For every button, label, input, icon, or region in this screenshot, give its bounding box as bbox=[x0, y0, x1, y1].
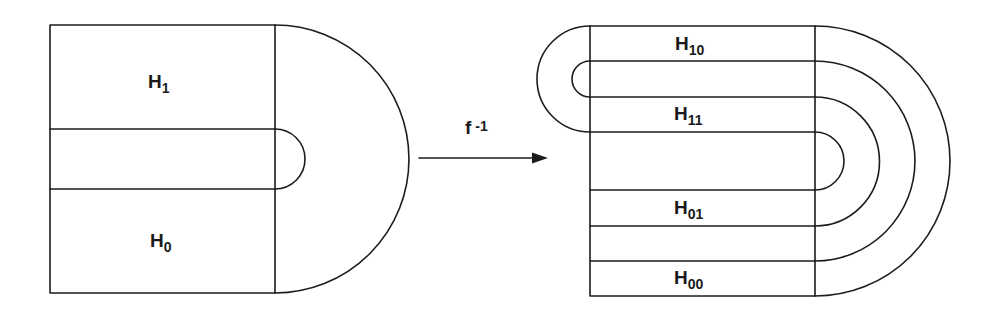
horseshoe-map-diagram: H1 H0 f-1 bbox=[0, 0, 987, 320]
map-label-f-inverse: f-1 bbox=[465, 117, 488, 138]
left-outer-cap bbox=[275, 25, 409, 293]
left-fold-arc-outer bbox=[537, 26, 590, 132]
label-H0: H0 bbox=[150, 230, 172, 255]
right-arc-2 bbox=[815, 97, 880, 226]
left-fold-arc-inner bbox=[572, 61, 590, 97]
left-figure: H1 H0 bbox=[50, 25, 409, 293]
right-arc-3 bbox=[815, 61, 915, 261]
label-H1: H1 bbox=[148, 71, 170, 96]
label-H11: H11 bbox=[674, 103, 703, 128]
left-inner-cap bbox=[275, 129, 305, 189]
arrow-head-icon bbox=[532, 153, 548, 164]
right-arc-outer bbox=[815, 26, 950, 296]
left-square bbox=[50, 25, 275, 293]
right-figure: H10 H11 H01 H00 bbox=[537, 26, 950, 296]
right-arc-inner bbox=[815, 132, 844, 190]
label-H00: H00 bbox=[674, 267, 704, 292]
map-arrow: f-1 bbox=[419, 117, 548, 164]
label-H01: H01 bbox=[674, 197, 704, 222]
right-square bbox=[590, 26, 815, 296]
label-H10: H10 bbox=[675, 33, 705, 58]
